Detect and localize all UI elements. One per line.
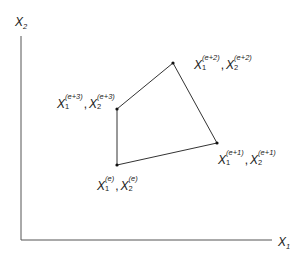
label-point-e-plus-3: X(e+3)1,X(e+3)2 (57, 97, 115, 112)
simplex-polygon (117, 63, 217, 165)
point-e (115, 163, 118, 166)
label-point-e-plus-1: X(e+1)1,X(e+1)2 (218, 153, 276, 168)
point-e-plus-3 (115, 107, 118, 110)
label-point-e-plus-2: X(e+2)1,X(e+2)2 (194, 58, 252, 73)
point-e-plus-2 (171, 61, 174, 64)
label-point-e: X(e)1,X(e)2 (97, 179, 138, 194)
y-axis-label: X2 (15, 16, 27, 31)
x-axis-label: X1 (278, 236, 290, 251)
point-e-plus-1 (215, 141, 218, 144)
diagram-canvas (0, 0, 302, 262)
